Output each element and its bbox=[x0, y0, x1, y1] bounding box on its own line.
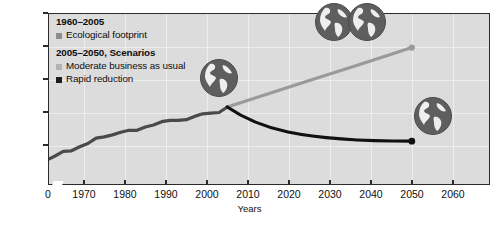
gridline-0p5 bbox=[49, 146, 489, 147]
globe-icon-2050 bbox=[413, 96, 453, 136]
y-tick-mark-0.5 bbox=[43, 144, 48, 146]
legend-swatch-icon-moderate bbox=[56, 64, 62, 70]
legend-item-moderate: Moderate business as usual bbox=[56, 60, 185, 73]
legend-label-rapid: Rapid reduction bbox=[66, 73, 133, 86]
x-tick-label-2060: 2060 bbox=[429, 189, 477, 200]
legend-label-footprint: Ecological footprint bbox=[66, 29, 147, 42]
y-tick-mark-1.5 bbox=[43, 78, 48, 80]
chart-figure: 2.5 2.0 1.5 1.0 0.5 Number of planet ear… bbox=[0, 0, 499, 227]
legend-item-ecological-footprint: Ecological footprint bbox=[56, 29, 185, 42]
legend-swatch-icon-footprint bbox=[56, 33, 62, 39]
legend-label-moderate: Moderate business as usual bbox=[66, 60, 185, 73]
x-tick-mark-2050 bbox=[411, 180, 413, 185]
x-tick-mark-2030 bbox=[329, 180, 331, 185]
x-axis-title: Years bbox=[0, 203, 499, 214]
globe-icon-2040-b bbox=[347, 2, 387, 42]
x-tick-mark-2010 bbox=[247, 180, 249, 185]
gridline-2010 bbox=[248, 14, 249, 184]
x-tick-mark-1990 bbox=[165, 180, 167, 185]
x-tick-mark-2040 bbox=[370, 180, 372, 185]
legend-heading-historic: 1960–2005 bbox=[56, 16, 185, 29]
x-tick-mark-2000 bbox=[206, 180, 208, 185]
gridline-2020 bbox=[289, 14, 290, 184]
gridline-2000 bbox=[207, 14, 208, 184]
legend-swatch-icon-rapid bbox=[56, 77, 62, 83]
x-tick-mark-2060 bbox=[452, 180, 454, 185]
chart-legend: 1960–2005 Ecological footprint 2005–2050… bbox=[56, 16, 185, 86]
y-tick-mark-2.5 bbox=[43, 12, 48, 14]
gridline-2060 bbox=[453, 14, 454, 184]
globe-icon-2005 bbox=[199, 58, 239, 98]
x-tick-mark-1970 bbox=[83, 180, 85, 185]
x-tick-mark-1980 bbox=[124, 180, 126, 185]
y-tick-mark-2.0 bbox=[43, 45, 48, 47]
legend-heading-scenarios: 2005–2050, Scenarios bbox=[56, 47, 185, 60]
legend-item-rapid: Rapid reduction bbox=[56, 73, 185, 86]
y-tick-mark-1.0 bbox=[43, 111, 48, 113]
x-tick-mark-2020 bbox=[288, 180, 290, 185]
